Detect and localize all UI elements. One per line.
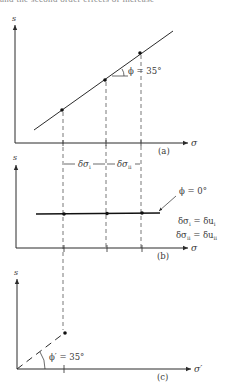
- panel-a: s σ ϕ = 35° (a): [12, 14, 198, 156]
- panel-b-point-2: [105, 212, 109, 216]
- stress-path-diagram: s σ ϕ = 35° (a) δσi δσii s σ: [0, 0, 231, 392]
- panel-b-equation-1: δσi = δui: [178, 216, 216, 227]
- panel-b-pointer-arrow: [159, 196, 176, 211]
- panel-c-sigma-prime-axis-label: σ′: [194, 364, 202, 374]
- panel-a-s-axis-label: s: [12, 14, 16, 23]
- panel-a-angle-label: ϕ = 35°: [128, 66, 161, 76]
- increment-1-label: δσi: [78, 159, 91, 170]
- panel-a-point-2: [103, 78, 107, 82]
- panel-b-point-1: [62, 212, 66, 216]
- panel-c-angle-label: ϕ′ = 35°: [49, 352, 84, 362]
- panel-c-point: [63, 331, 67, 335]
- panel-b-equation-2: δσii = δuii: [176, 230, 217, 241]
- panel-c: s σ′ ϕ′ = 35° (c): [14, 268, 202, 382]
- panel-b: s σ ϕ = 0° δσi = δui δσii = δuii (b): [13, 153, 217, 261]
- stress-increments: δσi δσii: [64, 159, 140, 170]
- projection-lines: [63, 55, 141, 330]
- panel-b-sigma-axis-label: σ: [191, 243, 198, 253]
- panel-c-s-axis-label: s: [14, 268, 18, 277]
- panel-a-label: (a): [158, 146, 170, 156]
- increment-2-label: δσii: [117, 159, 132, 170]
- panel-b-s-axis-label: s: [13, 153, 17, 162]
- panel-b-label: (b): [157, 251, 169, 261]
- panel-c-angle-arc: [40, 352, 45, 369]
- panel-a-point-3: [138, 51, 142, 55]
- panel-a-angle-arc: [122, 69, 124, 76]
- panel-a-sigma-axis-label: σ: [191, 138, 198, 148]
- panel-b-angle-label: ϕ = 0°: [179, 186, 207, 196]
- panel-c-label: (c): [157, 372, 168, 382]
- panel-b-point-3: [140, 211, 144, 215]
- panel-a-point-1: [60, 108, 64, 112]
